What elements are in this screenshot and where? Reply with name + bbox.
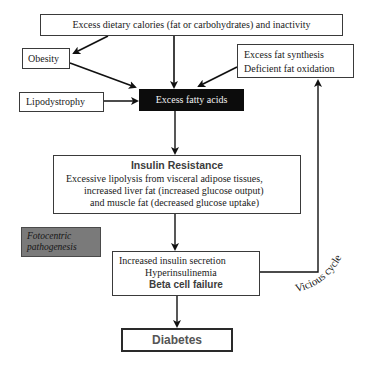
arrow-fat-synthesis-to-fatty-acids: [199, 67, 237, 86]
diagram-canvas: Vicious cycle Excess dietary calories (f…: [0, 0, 368, 367]
arrow-obesity-to-fatty-acids: [70, 63, 135, 87]
node-beta-cell-line-1: Increased insulin secretion: [113, 255, 259, 267]
node-fat-synthesis-line-1: Excess fat synthesis: [244, 49, 353, 61]
node-diabetes: Diabetes: [121, 328, 233, 352]
node-fat-synthesis: Excess fat synthesis Deficient fat oxida…: [237, 44, 354, 78]
node-insulin-resistance-title: Insulin Resistance: [54, 159, 300, 171]
node-lipodystrophy: Lipodystrophy: [19, 92, 104, 112]
node-excess-fatty-acids-label: Excess fatty acids: [156, 94, 228, 106]
node-beta-cell-emphasis: Beta cell failure: [113, 279, 259, 291]
node-diabetes-label: Diabetes: [152, 334, 202, 346]
node-insulin-resistance-line-3: and muscle fat (decreased glucose uptake…: [54, 197, 300, 209]
node-fotocentric-line-1: Fotocentric: [27, 231, 95, 242]
node-obesity: Obesity: [22, 48, 70, 69]
node-beta-cell-line-2: Hyperinsulinemia: [113, 267, 259, 279]
node-fotocentric-line-2: pathogenesis: [27, 242, 95, 253]
node-lipodystrophy-label: Lipodystrophy: [26, 96, 85, 108]
node-dietary-calories-label: Excess dietary calories (fat or carbohyd…: [73, 19, 311, 31]
node-insulin-resistance-line-2: increased liver fat (increased glucose o…: [54, 185, 300, 197]
node-insulin-resistance-line-1: Excessive lipolysis from visceral adipos…: [54, 173, 300, 185]
node-insulin-resistance: Insulin Resistance Excessive lipolysis f…: [53, 155, 301, 214]
node-fotocentric-pathogenesis: Fotocentric pathogenesis: [21, 227, 101, 257]
node-beta-cell-failure: Increased insulin secretion Hyperinsulin…: [112, 251, 260, 296]
node-obesity-label: Obesity: [28, 53, 59, 65]
arrow-dietary-to-obesity: [74, 36, 108, 53]
node-excess-fatty-acids: Excess fatty acids: [139, 89, 244, 111]
node-fat-synthesis-line-2: Deficient fat oxidation: [244, 63, 353, 75]
node-dietary-calories: Excess dietary calories (fat or carbohyd…: [40, 14, 343, 36]
